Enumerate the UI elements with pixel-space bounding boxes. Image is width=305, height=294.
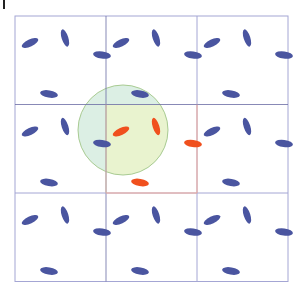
image-molecule xyxy=(59,117,71,136)
image-molecule xyxy=(275,50,294,60)
image-molecule xyxy=(20,36,39,50)
image-molecule xyxy=(275,227,294,237)
image-molecule xyxy=(20,125,39,139)
central-molecule xyxy=(184,139,203,149)
central-molecule xyxy=(131,177,150,187)
image-molecule xyxy=(40,177,59,187)
image-molecule xyxy=(184,50,203,60)
image-molecule xyxy=(202,36,221,50)
image-molecule xyxy=(275,139,294,149)
image-molecule xyxy=(111,36,130,50)
image-molecule xyxy=(40,266,59,276)
image-molecule xyxy=(241,117,253,136)
image-molecule xyxy=(111,213,130,227)
image-molecule xyxy=(150,28,162,47)
image-molecule xyxy=(222,89,241,99)
image-molecule xyxy=(241,28,253,47)
image-molecule xyxy=(222,266,241,276)
image-molecule xyxy=(93,227,112,237)
image-molecule xyxy=(202,125,221,139)
image-molecule xyxy=(40,89,59,99)
image-molecule xyxy=(20,213,39,227)
image-molecule xyxy=(59,205,71,224)
image-molecule xyxy=(184,227,203,237)
image-molecule xyxy=(202,213,221,227)
image-molecule xyxy=(150,205,162,224)
image-molecule xyxy=(222,177,241,187)
image-molecule xyxy=(131,266,150,276)
image-molecule xyxy=(241,205,253,224)
image-molecule xyxy=(93,50,112,60)
image-molecule xyxy=(59,28,71,47)
periodic-boundary-diagram xyxy=(0,0,305,294)
